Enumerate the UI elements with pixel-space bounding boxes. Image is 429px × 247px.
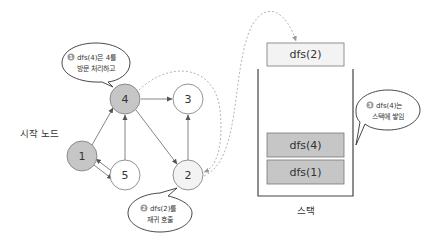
edge-1-5 [94, 165, 112, 179]
callout-1: 1 dfs(4)은 4를 방문 처리하고 [62, 43, 130, 87]
svg-text:dfs(4): dfs(4) [289, 139, 321, 152]
edge-1-4 [92, 108, 113, 145]
svg-text:dfs(2): dfs(2) [289, 48, 321, 61]
edge-4-2 [136, 110, 177, 164]
svg-text:1: 1 [69, 54, 73, 60]
svg-text:dfs(2)를: dfs(2)를 [150, 205, 177, 213]
svg-text:재귀 호출: 재귀 호출 [147, 215, 174, 224]
graph-node-2: 2 [173, 160, 203, 190]
graph-node-1: 1 [67, 141, 97, 171]
svg-text:스택에 쌓임: 스택에 쌓임 [372, 112, 404, 121]
svg-text:4: 4 [122, 93, 129, 106]
svg-text:2: 2 [185, 169, 192, 182]
graph-edges [92, 99, 188, 179]
svg-text:방문 처리하고: 방문 처리하고 [77, 64, 116, 73]
svg-text:2: 2 [142, 205, 146, 211]
graph-node-5: 5 [110, 160, 140, 190]
start-node-label: 시작 노드 [20, 128, 59, 139]
svg-text:3: 3 [368, 102, 372, 108]
graph-node-4: 4 [110, 84, 140, 114]
svg-text:dfs(4)은 4를: dfs(4)은 4를 [77, 54, 117, 62]
graph-node-3: 3 [173, 84, 203, 114]
svg-text:3: 3 [185, 93, 192, 106]
svg-text:5: 5 [122, 169, 129, 182]
stack-item-dfs4: dfs(4) [267, 133, 344, 157]
svg-text:dfs(1): dfs(1) [289, 166, 321, 179]
svg-text:dfs(4)는: dfs(4)는 [376, 102, 403, 110]
dfs-diagram: 4 3 1 5 2 시작 노드 1 dfs(4)은 4를 방문 처리하고 2 d… [0, 0, 429, 247]
svg-text:1: 1 [79, 150, 86, 163]
callout-2: 2 dfs(2)를 재귀 호출 [128, 188, 192, 232]
stack-item-dfs1: dfs(1) [267, 160, 344, 184]
callout-3: 3 dfs(4)는 스택에 쌓임 [356, 90, 420, 145]
stack-caption: 스택 [297, 205, 315, 216]
stack-incoming-dfs2: dfs(2) [267, 43, 344, 66]
